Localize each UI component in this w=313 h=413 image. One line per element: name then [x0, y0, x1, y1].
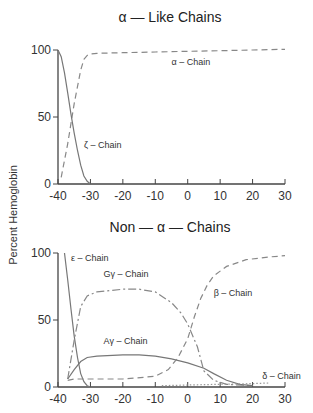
top-y-tick-label: 0 [44, 177, 51, 191]
top-x-tick-label: -10 [147, 189, 165, 203]
bottom-series-label: ε – Chain [71, 253, 109, 263]
bottom-series-line [68, 355, 253, 386]
top-y-tick-label: 50 [38, 110, 52, 124]
bottom-x-tick-label: 0 [184, 392, 191, 406]
bottom-series-label: Aγ – Chain [103, 336, 147, 346]
bottom-y-tick-label: 100 [31, 246, 51, 260]
top-x-tick-label: -40 [49, 189, 67, 203]
bottom-x-tick-label: -30 [82, 392, 100, 406]
bottom-series-label: δ – Chain [262, 371, 301, 381]
bottom-series-line [68, 256, 285, 381]
top-x-tick-label: -30 [82, 189, 100, 203]
top-x-tick-label: 30 [278, 189, 292, 203]
top-x-tick-label: 10 [213, 189, 227, 203]
bottom-x-tick-label: 30 [278, 392, 292, 406]
top-chart: -40-30-20-100102030050100α – Chainζ – Ch… [31, 43, 292, 203]
bottom-x-tick-label: -20 [114, 392, 132, 406]
bottom-y-tick-label: 0 [44, 380, 51, 394]
bottom-chart: -40-30-20-100102030050100ε – ChainGγ – C… [31, 246, 301, 406]
bottom-x-tick-label: -10 [147, 392, 165, 406]
top-series-line [61, 49, 285, 177]
top-series-label: α – Chain [172, 57, 211, 67]
y-axis-label: Percent Hemoglobin [7, 165, 19, 265]
top-series-line [58, 50, 90, 184]
top-series-label: ζ – Chain [84, 140, 122, 150]
bottom-series-label: β – Chain [214, 288, 253, 298]
bottom-x-tick-label: -40 [49, 392, 67, 406]
bottom-x-tick-label: 10 [213, 392, 227, 406]
top-x-tick-label: 20 [246, 189, 260, 203]
bottom-y-tick-label: 50 [38, 313, 52, 327]
top-chart-title: α — Like Chains [118, 9, 221, 25]
bottom-x-tick-label: 20 [246, 392, 260, 406]
bottom-series-line [65, 253, 91, 387]
bottom-chart-title: Non — α — Chains [110, 219, 231, 235]
top-x-tick-label: -20 [114, 189, 132, 203]
top-x-tick-label: 0 [184, 189, 191, 203]
bottom-series-line [68, 289, 253, 386]
top-y-tick-label: 100 [31, 43, 51, 57]
bottom-series-label: Gγ – Chain [103, 269, 148, 279]
chart-canvas: α — Like Chains Non — α — Chains Percent… [0, 0, 313, 413]
